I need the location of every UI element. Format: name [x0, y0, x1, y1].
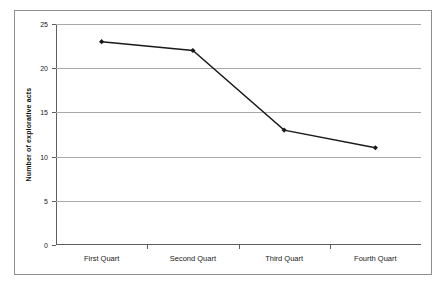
y-tick-label: 0: [44, 242, 48, 249]
x-tick-mark-1: [147, 245, 148, 249]
data-point-3: [373, 145, 378, 150]
y-tick-mark-0: [52, 245, 56, 246]
y-tick-label: 10: [40, 153, 48, 160]
x-tick-label-2: Third Quart: [239, 252, 330, 266]
data-series-layer: [56, 24, 421, 245]
y-tick-label: 25: [40, 21, 48, 28]
data-point-0: [99, 39, 104, 44]
series-markers: [99, 39, 378, 150]
x-tick-label-3: Fourth Quart: [330, 252, 421, 266]
y-axis-tick-labels: 0510152025: [0, 24, 48, 245]
x-axis-tick-labels: First QuartSecond QuartThird QuartFourth…: [56, 252, 421, 266]
x-tick-mark-2: [239, 245, 240, 249]
x-tick-mark-3: [330, 245, 331, 249]
y-tick-label: 5: [44, 197, 48, 204]
series-line: [102, 42, 376, 148]
y-tick-label: 20: [40, 65, 48, 72]
y-tick-label: 15: [40, 109, 48, 116]
x-tick-label-1: Second Quart: [147, 252, 238, 266]
line-chart-figure: Number of explorative acts 0510152025 Fi…: [0, 0, 447, 285]
x-tick-label-0: First Quart: [56, 252, 147, 266]
